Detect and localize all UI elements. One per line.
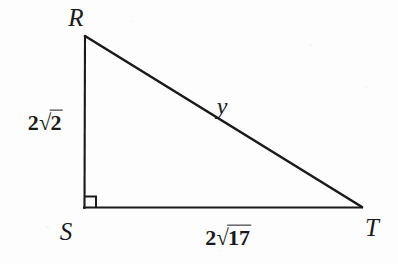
radical-coefficient: 2 bbox=[28, 112, 39, 134]
radical-expression: 2 √ 17 bbox=[205, 225, 251, 250]
radical-radicand: 17 bbox=[227, 225, 250, 249]
vertex-label-S: S bbox=[60, 219, 73, 244]
vertex-label-T: T bbox=[365, 215, 379, 240]
side-label-hypotenuse: y bbox=[217, 94, 228, 118]
radical-expression: 2 √ 2 bbox=[28, 110, 63, 135]
side-label-ST: 2 √ 17 bbox=[205, 225, 251, 250]
radical-radicand: 2 bbox=[50, 110, 62, 134]
vertex-label-R: R bbox=[68, 5, 83, 30]
radical-coefficient: 2 bbox=[205, 227, 216, 249]
segment-hypotenuse-RT bbox=[85, 36, 362, 207]
right-angle-marker bbox=[85, 197, 97, 208]
side-label-RS: 2 √ 2 bbox=[28, 110, 63, 135]
segment-leg-RS bbox=[85, 36, 86, 208]
triangle-figure: R S T y 2 √ 2 2 √ 17 bbox=[0, 0, 398, 264]
